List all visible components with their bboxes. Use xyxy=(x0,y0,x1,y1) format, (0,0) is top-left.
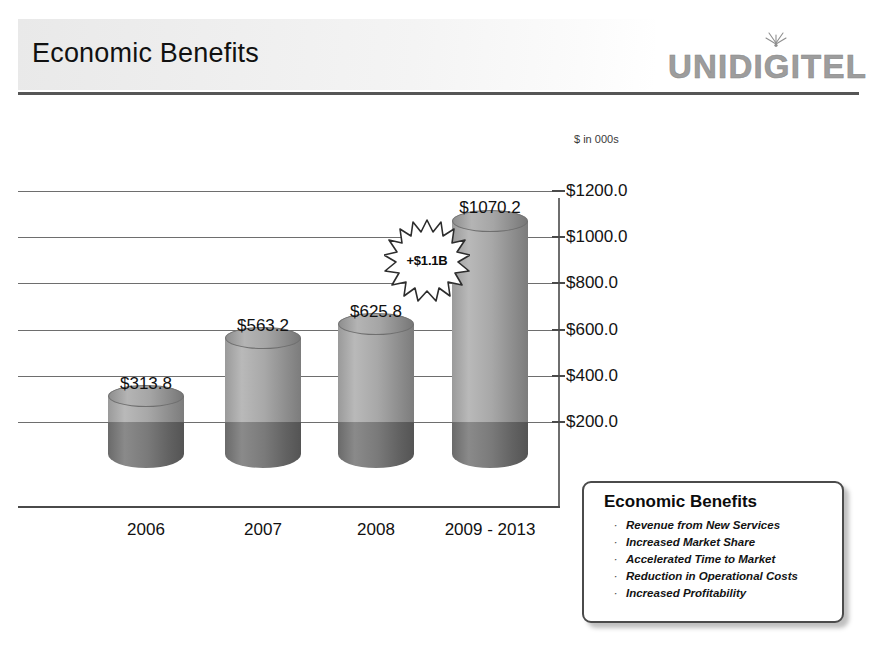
plot-area: $313.8 $563.2 $625.8 $1070.2 +$1.1B $120… xyxy=(18,168,558,468)
category-label-2008: 2008 xyxy=(357,520,395,540)
cylinder-body xyxy=(225,338,301,468)
benefits-box-title: Economic Benefits xyxy=(604,492,757,512)
bar-2006 xyxy=(108,396,184,468)
data-label-2009-2013: $1070.2 xyxy=(459,198,520,218)
ytick-mark-200 xyxy=(552,421,565,423)
list-item: · Accelerated Time to Market xyxy=(614,553,798,565)
data-label-2008: $625.8 xyxy=(350,302,402,322)
list-item-label: Revenue from New Services xyxy=(626,519,780,531)
list-item-label: Increased Profitability xyxy=(626,587,746,599)
y-axis xyxy=(558,198,560,506)
cylinder-body xyxy=(338,324,414,468)
bar-2007 xyxy=(225,338,301,468)
data-label-2006: $313.8 xyxy=(120,374,172,394)
benefits-list: · Revenue from New Services · Increased … xyxy=(614,519,798,604)
list-item-label: Accelerated Time to Market xyxy=(626,553,775,565)
starburst-callout: +$1.1B xyxy=(384,218,470,302)
header-divider xyxy=(18,92,859,95)
list-item: · Revenue from New Services xyxy=(614,519,798,531)
page-title: Economic Benefits xyxy=(32,38,259,69)
bullet-icon: · xyxy=(614,589,626,599)
ytick-label-400: $400.0 xyxy=(566,366,618,386)
bar-2008 xyxy=(338,324,414,468)
starburst-label: +$1.1B xyxy=(384,218,470,302)
gridline-1200 xyxy=(18,191,558,192)
ytick-label-800: $800.0 xyxy=(566,273,618,293)
cylinder-lower-segment xyxy=(452,422,528,468)
list-item: · Increased Market Share xyxy=(614,536,798,548)
category-label-2006: 2006 xyxy=(127,520,165,540)
bullet-icon: · xyxy=(614,538,626,548)
ytick-label-200: $200.0 xyxy=(566,412,618,432)
ytick-mark-1000 xyxy=(552,236,565,238)
ytick-label-1200: $1200.0 xyxy=(566,181,627,201)
cylinder-upper-segment xyxy=(338,324,414,422)
axis-unit-label: $ in 000s xyxy=(574,133,619,145)
category-label-2007: 2007 xyxy=(244,520,282,540)
cylinder-lower-segment xyxy=(108,422,184,468)
category-label-2009-2013: 2009 - 2013 xyxy=(445,520,536,540)
list-item: · Increased Profitability xyxy=(614,587,798,599)
x-axis xyxy=(18,506,560,508)
logo-wordmark: UNIDIGITEL xyxy=(668,48,867,86)
ytick-mark-600 xyxy=(552,329,565,331)
ytick-label-600: $600.0 xyxy=(566,320,618,340)
list-item-label: Increased Market Share xyxy=(626,536,755,548)
bullet-icon: · xyxy=(614,572,626,582)
bullet-icon: · xyxy=(614,521,626,531)
list-item: · Reduction in Operational Costs xyxy=(614,570,798,582)
list-item-label: Reduction in Operational Costs xyxy=(626,570,798,582)
ytick-label-1000: $1000.0 xyxy=(566,227,627,247)
ytick-mark-400 xyxy=(552,375,565,377)
brand-logo: UNIDIGITEL xyxy=(668,30,858,88)
ytick-mark-800 xyxy=(552,282,565,284)
ytick-mark-1200 xyxy=(552,190,565,192)
cylinder-upper-segment xyxy=(225,338,301,422)
cylinder-lower-segment xyxy=(338,422,414,468)
cylinder-lower-segment xyxy=(225,422,301,468)
economic-benefits-chart: $ in 000s xyxy=(18,130,638,520)
bullet-icon: · xyxy=(614,555,626,565)
crown-burst-icon xyxy=(765,30,787,47)
data-label-2007: $563.2 xyxy=(237,316,289,336)
benefits-box: Economic Benefits · Revenue from New Ser… xyxy=(582,481,844,623)
